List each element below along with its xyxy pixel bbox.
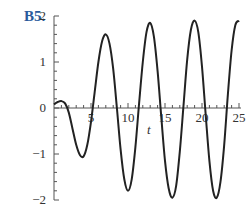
x-tick-label: 25 (233, 110, 246, 125)
y-tick-label: 0 (40, 100, 47, 115)
x-axis-label: t (147, 122, 151, 137)
line-chart: −2−1012510152025t (0, 0, 250, 210)
y-tick-label: −2 (32, 192, 46, 207)
y-tick-label: 1 (40, 54, 47, 69)
y-tick-label: −1 (32, 146, 46, 161)
x-tick-label: 10 (122, 110, 135, 125)
y-tick-label: 2 (40, 8, 47, 23)
solution-curve (54, 21, 239, 199)
